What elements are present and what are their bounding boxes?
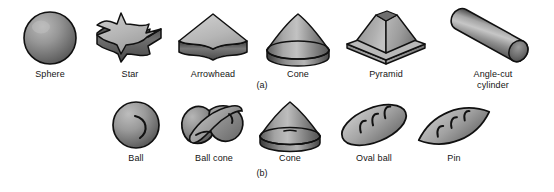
shape-cell-ball-cone: Ball cone (172, 98, 256, 164)
sphere-shape-icon (8, 8, 92, 68)
shape-cell-cone-a: Cone (256, 8, 340, 80)
arrowhead-prism-shape-icon (168, 8, 258, 68)
shape-cell-pin: Pin (408, 100, 500, 164)
panel-label-b: (b) (232, 168, 292, 179)
pyramid-shape-icon (340, 8, 432, 68)
shape-label-oval-ball: Oval ball (328, 153, 420, 164)
shape-cell-pyramid: Pyramid (340, 8, 432, 80)
shape-cell-angle-cut-cylinder: Angle-cut cylinder (440, 6, 546, 91)
shape-label-cone-b: Cone (250, 153, 330, 164)
cone-shape-icon (250, 98, 330, 152)
ball-shape-icon (98, 100, 174, 152)
shape-label-pyramid: Pyramid (340, 69, 432, 80)
shape-cell-oval-ball: Oval ball (328, 100, 420, 164)
shape-cell-cone-b: Cone (250, 98, 330, 164)
shape-cell-sphere: Sphere (8, 8, 92, 80)
shape-label-sphere: Sphere (8, 69, 92, 80)
shape-label-star: Star (88, 69, 172, 80)
panel-label-a: (a) (232, 80, 292, 91)
shape-label-ball-cone: Ball cone (172, 153, 256, 164)
shape-label-angle-cut-cylinder: Angle-cut cylinder (440, 69, 546, 91)
angle-cut-cylinder-shape-icon (440, 6, 546, 68)
cone-shape-icon (256, 8, 340, 68)
ball-cone-shape-icon (172, 98, 256, 152)
oval-ball-shape-icon (328, 100, 420, 152)
shape-gallery-figure: Sphere (0, 0, 554, 192)
star-prism-shape-icon (88, 8, 172, 68)
shape-label-ball: Ball (98, 153, 174, 164)
pin-shape-icon (408, 100, 500, 152)
shape-label-cone-a: Cone (256, 69, 340, 80)
shape-label-arrowhead: Arrowhead (168, 69, 258, 80)
shape-cell-star: Star (88, 8, 172, 80)
shape-cell-ball: Ball (98, 100, 174, 164)
shape-cell-arrowhead: Arrowhead (168, 8, 258, 80)
shape-label-pin: Pin (408, 153, 500, 164)
